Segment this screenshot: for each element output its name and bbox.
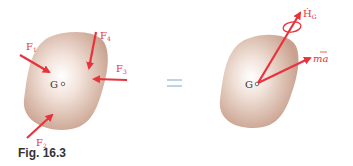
force-f3-arrow [94,79,127,80]
force-f4-label: F4 [100,30,111,42]
figure-caption: Fig. 16.3 [18,146,66,160]
left-rigid-body: G F1 F4 F3 F2 [20,30,127,149]
force-f3-label: F3 [116,63,127,75]
center-of-mass-label: G [50,79,58,90]
kinetics-diagram: G F1 F4 F3 F2 G ḢG ma [0,0,353,166]
angular-momentum-rate-label: ḢG [303,8,317,20]
center-of-mass-label: G [245,79,253,90]
right-rigid-body: G ḢG ma [220,8,329,128]
force-f1-label: F1 [26,41,37,53]
effective-force-label: ma [313,53,328,64]
equals-sign [167,80,182,86]
